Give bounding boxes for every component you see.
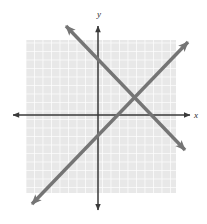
graph-canvas: x y — [0, 0, 207, 224]
coordinate-plane-figure: x y — [0, 0, 207, 224]
x-axis-label: x — [193, 110, 198, 120]
y-axis-label: y — [96, 9, 101, 19]
